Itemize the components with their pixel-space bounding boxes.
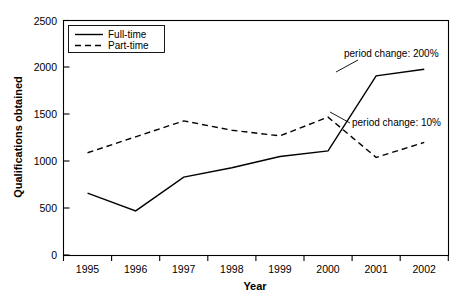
annotation-leader-10 bbox=[330, 112, 350, 123]
x-tick-label-1996: 1996 bbox=[124, 263, 148, 275]
series-line-full-time bbox=[88, 69, 425, 211]
annotation-leader-200 bbox=[336, 60, 358, 72]
y-tick-label-500: 500 bbox=[39, 202, 57, 214]
line-chart: 0 500 1000 1500 2000 2500 Qualifications… bbox=[0, 0, 463, 300]
x-tick-label-1999: 1999 bbox=[268, 263, 292, 275]
x-axis-title: Year bbox=[243, 280, 267, 292]
y-tick-label-1500: 1500 bbox=[34, 108, 58, 120]
chart-container: 0 500 1000 1500 2000 2500 Qualifications… bbox=[0, 0, 463, 300]
annotation-period-change-fulltime: period change: 200% bbox=[344, 48, 439, 59]
y-tick-label-2000: 2000 bbox=[34, 61, 58, 73]
y-tick-label-0: 0 bbox=[51, 249, 57, 261]
legend-label-part-time: Part-time bbox=[108, 40, 149, 51]
x-tick-label-2002: 2002 bbox=[413, 263, 437, 275]
x-tick-label-1995: 1995 bbox=[76, 263, 100, 275]
x-tick-label-2000: 2000 bbox=[316, 263, 340, 275]
annotation-period-change-parttime: period change: 10% bbox=[352, 117, 441, 128]
y-axis-title: Qualifications obtained bbox=[12, 76, 24, 198]
legend: Full-time Part-time bbox=[69, 26, 165, 53]
x-tick-label-1997: 1997 bbox=[172, 263, 196, 275]
y-tick-label-2500: 2500 bbox=[34, 15, 58, 27]
y-tick-label-1000: 1000 bbox=[34, 155, 58, 167]
x-tick-label-2001: 2001 bbox=[364, 263, 388, 275]
y-axis-ticks bbox=[64, 21, 70, 256]
legend-label-full-time: Full-time bbox=[108, 29, 147, 40]
x-tick-label-1998: 1998 bbox=[220, 263, 244, 275]
